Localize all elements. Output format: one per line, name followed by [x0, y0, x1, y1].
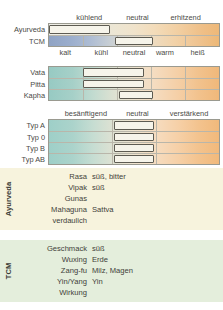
- bloodtype-scale-row-label-1: Typ 0: [27, 132, 45, 143]
- tcm-table-key-0: Geschmack: [16, 244, 92, 253]
- dosha-scale-divider-2: [151, 79, 152, 89]
- bloodtype-scale-top-axis: besänftigendneutralverstärkend: [48, 108, 220, 119]
- thermal-scale-marker-1: [115, 37, 152, 45]
- dosha-scale-marker-2: [119, 91, 153, 99]
- bloodtype-scale-top-label-1: neutral: [126, 108, 149, 119]
- table-row: Geschmacksüß: [16, 243, 223, 254]
- bloodtype-scale-divider-1: [156, 132, 157, 142]
- table-row: Vipaksüß: [16, 182, 223, 193]
- bloodtype-scale-divider-0: [112, 132, 113, 142]
- ayurveda-table-key-2: Gunas: [16, 194, 92, 203]
- table-row: Yin/YangYin: [16, 276, 223, 287]
- ayurveda-table-rows: Rasasüß, bitterVipaksüßGunasMahagunaSatt…: [16, 168, 223, 230]
- thermal-scale-top-label-2: erhitzend: [170, 12, 200, 23]
- thermal-scale-bottom-label-2: neutral: [123, 47, 146, 58]
- dosha-scale-row-label-0: Vata: [30, 67, 45, 78]
- bloodtype-scale-divider-1: [156, 143, 157, 153]
- bloodtype-scale-block: besänftigendneutralverstärkend Typ ATyp …: [0, 108, 223, 176]
- bloodtype-scale-row-label-0: Typ A: [27, 120, 46, 131]
- table-row: WuxingErde: [16, 254, 223, 265]
- bloodtype-scale-row: Typ AB: [49, 153, 219, 164]
- dosha-scale-chart: VataPittaKapha: [48, 66, 220, 101]
- bloodtype-scale-divider-0: [112, 143, 113, 153]
- tcm-table-key-2: Zang-fu: [16, 266, 92, 275]
- table-row: verdaulich: [16, 215, 223, 226]
- thermal-scale-chart: AyurvedaTCM: [48, 23, 220, 47]
- bloodtype-scale-marker-3: [114, 155, 155, 163]
- bloodtype-scale-top-label-0: besänftigend: [65, 108, 107, 119]
- ayurveda-table-key-0: Rasa: [16, 172, 92, 181]
- bloodtype-scale-top-label-2: verstärkend: [170, 108, 209, 119]
- table-row: Gunas: [16, 193, 223, 204]
- table-row: Zang-fuMilz, Magen: [16, 265, 223, 276]
- bloodtype-scale-divider-0: [112, 154, 113, 164]
- thermal-scale-top-label-1: neutral: [126, 12, 149, 23]
- bloodtype-scale-divider-1: [156, 154, 157, 164]
- bloodtype-scale-row: Typ A: [49, 120, 219, 131]
- dosha-scale-marker-1: [83, 80, 144, 88]
- ayurveda-table-side-label: Ayurveda: [0, 168, 16, 230]
- ayurveda-table-value-1: süß: [92, 183, 223, 192]
- dosha-scale-row: Pitta: [49, 78, 219, 89]
- ayurveda-table: Ayurveda Rasasüß, bitterVipaksüßGunasMah…: [0, 168, 223, 230]
- dosha-scale-row-label-1: Pitta: [30, 79, 45, 90]
- thermal-scale-divider-0: [83, 36, 84, 46]
- tcm-table-value-1: Erde: [92, 255, 223, 264]
- thermal-scale-bottom-label-4: heiß: [190, 47, 204, 58]
- thermal-scale-bottom-label-1: kühl: [95, 47, 109, 58]
- dosha-scale-divider-1: [117, 90, 118, 100]
- bloodtype-scale-marker-0: [114, 121, 155, 130]
- thermal-scale-block: kühlendneutralerhitzend AyurvedaTCM kalt…: [0, 12, 223, 58]
- table-row: MahagunaSattva: [16, 204, 223, 215]
- tcm-table: TCM GeschmacksüßWuxingErdeZang-fuMilz, M…: [0, 240, 223, 302]
- ayurveda-table-key-3: Mahaguna: [16, 205, 92, 214]
- bloodtype-scale-row-label-3: Typ AB: [22, 154, 45, 165]
- ayurveda-table-value-0: süß, bitter: [92, 172, 223, 181]
- ayurveda-side-label-text: Ayurveda: [4, 182, 13, 216]
- thermal-scale-row: TCM: [49, 35, 219, 46]
- bloodtype-scale-row: Typ 0: [49, 131, 219, 142]
- bloodtype-scale-row: Typ B: [49, 142, 219, 153]
- thermal-scale-top-axis: kühlendneutralerhitzend: [48, 12, 220, 23]
- thermal-scale-top-label-0: kühlend: [76, 12, 102, 23]
- dosha-scale-divider-0: [83, 90, 84, 100]
- bloodtype-scale-marker-2: [114, 144, 155, 152]
- dosha-scale-divider-3: [185, 90, 186, 100]
- thermal-scale-row-label-1: TCM: [29, 36, 45, 47]
- thermal-scale-bottom-label-0: kalt: [59, 47, 71, 58]
- bloodtype-scale-row-label-2: Typ B: [26, 143, 45, 154]
- thermal-scale-marker-0: [49, 25, 110, 34]
- tcm-table-key-1: Wuxing: [16, 255, 92, 264]
- table-row: Rasasüß, bitter: [16, 171, 223, 182]
- dosha-scale-row: Kapha: [49, 89, 219, 100]
- thermal-scale-bottom-axis: kaltkühlneutralwarmheiß: [48, 47, 220, 58]
- thermal-scale-bottom-label-3: warm: [156, 47, 174, 58]
- dosha-scale-divider-3: [185, 79, 186, 89]
- tcm-table-value-0: süß: [92, 244, 223, 253]
- ayurveda-table-key-1: Vipak: [16, 183, 92, 192]
- bloodtype-scale-divider-0: [112, 120, 113, 131]
- infographic-page: kühlendneutralerhitzend AyurvedaTCM kalt…: [0, 0, 223, 310]
- ayurveda-table-key-4: verdaulich: [16, 216, 92, 225]
- tcm-table-value-3: Yin: [92, 277, 223, 286]
- thermal-scale-divider-3: [185, 36, 186, 46]
- tcm-side-label-text: TCM: [4, 263, 13, 279]
- tcm-table-key-3: Yin/Yang: [16, 277, 92, 286]
- bloodtype-scale-divider-1: [156, 120, 157, 131]
- tcm-table-rows: GeschmacksüßWuxingErdeZang-fuMilz, Magen…: [16, 240, 223, 302]
- bloodtype-scale-chart: Typ ATyp 0Typ BTyp AB: [48, 119, 220, 165]
- dosha-scale-divider-3: [185, 67, 186, 78]
- dosha-scale-marker-0: [83, 68, 144, 77]
- tcm-table-key-4: Wirkung: [16, 288, 92, 297]
- dosha-scale-row-label-2: Kapha: [24, 90, 45, 101]
- bloodtype-scale-marker-1: [114, 133, 155, 141]
- dosha-scale-divider-2: [151, 67, 152, 78]
- thermal-scale-row-label-0: Ayurveda: [14, 24, 45, 35]
- table-row: Wirkung: [16, 287, 223, 298]
- dosha-scale-row: Vata: [49, 67, 219, 78]
- dosha-scale-block: VataPittaKapha: [0, 66, 223, 101]
- thermal-scale-row: Ayurveda: [49, 24, 219, 35]
- ayurveda-table-value-3: Sattva: [92, 205, 223, 214]
- tcm-table-side-label: TCM: [0, 240, 16, 302]
- tcm-table-value-2: Milz, Magen: [92, 266, 223, 275]
